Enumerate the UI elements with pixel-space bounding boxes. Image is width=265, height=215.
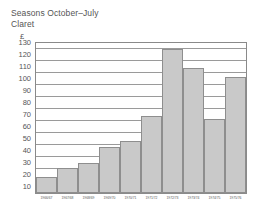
x-axis-tick-label: 1970/71 (120, 195, 141, 201)
y-axis-tick-label: 60 (23, 123, 31, 131)
y-axis-tick-label: 70 (23, 111, 31, 119)
bar (204, 119, 225, 193)
bar (36, 177, 57, 193)
x-axis-tick-label: 1971/72 (141, 195, 162, 201)
bar (99, 147, 120, 193)
bar (78, 163, 99, 193)
x-axis-tick-label: 1968/69 (78, 195, 99, 201)
y-axis-tick-labels: 130120110100908070605040302010 (0, 42, 33, 194)
y-axis-tick-label: 20 (23, 171, 31, 179)
x-axis-tick-label: 1972/73 (162, 195, 183, 201)
x-axis-tick-label: 1967/68 (57, 195, 78, 201)
x-axis-tick-label: 1975/76 (225, 195, 246, 201)
x-axis-tick-label: 1974/75 (204, 195, 225, 201)
x-axis-tick-label: 1969/70 (99, 195, 120, 201)
x-axis-tick-label: 1973/74 (183, 195, 204, 201)
chart-title: Seasons October–July (11, 8, 99, 19)
y-axis-tick-label: 120 (18, 51, 31, 59)
x-axis-tick-labels: 1966/671967/681968/691969/701970/711971/… (36, 195, 246, 207)
y-axis-tick-label: 110 (19, 63, 31, 71)
bar (225, 77, 246, 193)
bar (183, 68, 204, 193)
bar (120, 141, 141, 193)
y-axis-tick-label: 40 (23, 147, 31, 155)
bars-layer (36, 43, 246, 193)
y-axis-tick-label: 30 (23, 159, 31, 167)
chart-subtitle: Claret (11, 19, 99, 30)
y-axis-tick-label: 10 (23, 183, 31, 191)
bar (162, 49, 183, 193)
y-axis-tick-label: 100 (18, 75, 31, 83)
y-axis-tick-label: 90 (23, 87, 31, 95)
claret-price-bar-chart: Seasons October–July Claret £ 1301201101… (0, 0, 265, 215)
y-axis-tick-label: 130 (18, 39, 31, 47)
chart-title-block: Seasons October–July Claret (11, 8, 99, 30)
x-axis-tick-label: 1966/67 (36, 195, 57, 201)
y-axis-tick-label: 50 (23, 135, 31, 143)
bar (57, 168, 78, 193)
bar (141, 116, 162, 193)
y-axis-tick-label: 80 (23, 99, 31, 107)
